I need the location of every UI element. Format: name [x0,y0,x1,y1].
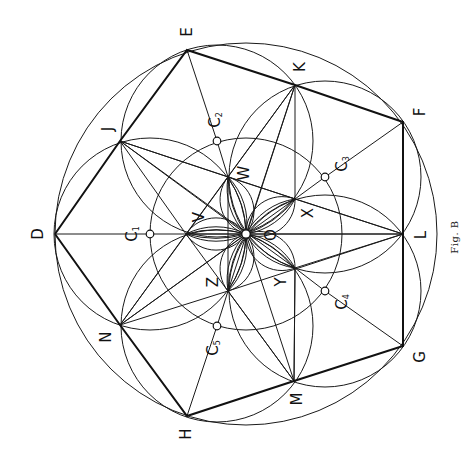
label-O: O [262,229,280,241]
line-G-C4 [325,291,403,346]
line-H-C5 [187,326,217,416]
label-C4: C4 [333,294,351,310]
label-W: W [235,165,253,180]
line-J-V [120,141,186,234]
line-N-W [120,177,228,325]
marker-O-icon [242,230,250,238]
label-F: F [411,108,429,117]
label-X: X [299,208,317,218]
marker-C1-icon [146,230,154,238]
line-M-Y [294,268,295,381]
marker-C5-icon [213,322,221,330]
decagon-bold-outline [55,50,403,416]
label-C3: C3 [333,156,351,172]
marker-C4-icon [321,287,329,295]
label-E: E [178,27,196,36]
marker-C3-icon [321,173,329,181]
figure-caption: Fig. B [449,220,460,253]
label-C1: C1 [123,226,141,242]
label-G: G [411,351,429,363]
label-V: V [190,211,208,222]
label-M: M [288,393,306,406]
label-L: L [412,230,430,239]
line-J-X [120,141,295,199]
label-K: K [291,61,309,72]
label-N: N [97,331,115,342]
label-C5: C5 [204,340,222,356]
pentagon-construction-diagram: DEFGHJKLMNOVWXYZC1C2C3C4C5 Fig. B [0,0,473,456]
label-J: J [99,127,117,132]
label-H: H [177,428,195,439]
marker-C2-icon [213,137,221,145]
label-Z: Z [204,277,222,287]
decagon-outline [55,50,403,416]
label-D: D [29,228,47,240]
label-Y: Y [272,277,290,288]
point-labels: DEFGHJKLMNOVWXYZC1C2C3C4C5 [29,27,430,439]
